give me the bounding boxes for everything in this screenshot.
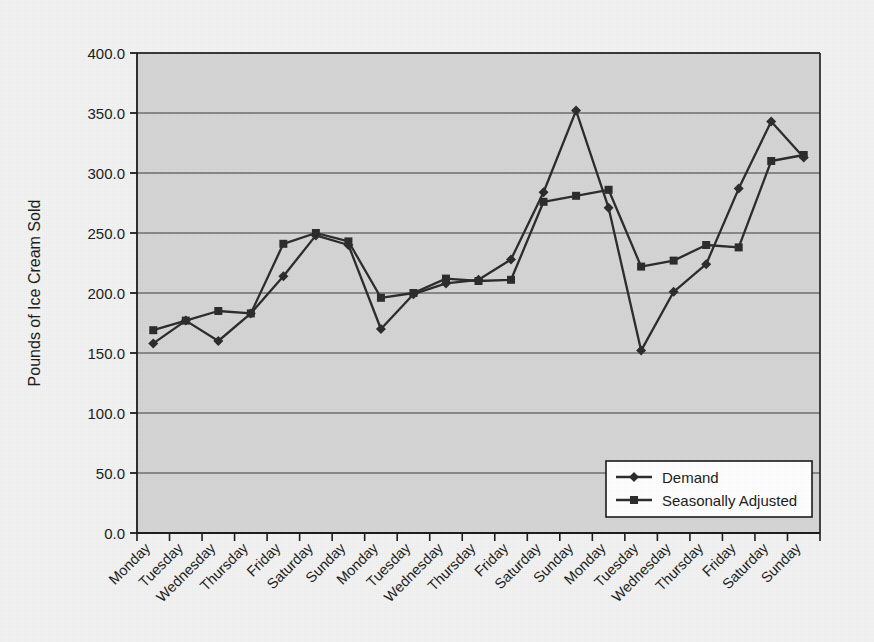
marker-square [702,241,710,249]
marker-square [279,240,287,248]
marker-square [409,289,417,297]
marker-square [540,198,548,206]
y-tick-label: 250.0 [87,225,125,242]
marker-square [735,243,743,251]
marker-square [377,294,385,302]
marker-square [507,276,515,284]
marker-square [572,192,580,200]
marker-square [442,275,450,283]
y-tick-label: 50.0 [96,465,125,482]
y-tick-label: 400.0 [87,45,125,62]
legend-label: Seasonally Adjusted [662,492,797,509]
marker-square [344,237,352,245]
y-tick-label: 150.0 [87,345,125,362]
marker-square [630,496,638,504]
marker-square [670,257,678,265]
marker-square [149,326,157,334]
marker-square [182,317,190,325]
y-tick-label: 100.0 [87,405,125,422]
marker-square [605,186,613,194]
y-axis-ticks: 0.050.0100.0150.0200.0250.0300.0350.0400… [87,45,137,542]
marker-square [637,263,645,271]
marker-square [800,151,808,159]
marker-square [214,307,222,315]
y-tick-label: 300.0 [87,165,125,182]
ice-cream-demand-line-chart: 0.050.0100.0150.0200.0250.0300.0350.0400… [0,0,874,642]
y-tick-label: 350.0 [87,105,125,122]
y-tick-label: 200.0 [87,285,125,302]
marker-square [247,309,255,317]
chart-page: 0.050.0100.0150.0200.0250.0300.0350.0400… [0,0,874,642]
legend-label: Demand [662,469,719,486]
chart-legend: DemandSeasonally Adjusted [606,461,812,517]
x-axis-category-labels: MondayTuesdayWednesdayThursdayFridaySatu… [106,539,805,605]
marker-square [767,157,775,165]
marker-square [475,277,483,285]
y-tick-label: 0.0 [104,525,125,542]
y-axis-title: Pounds of Ice Cream Sold [26,200,43,387]
marker-square [312,229,320,237]
